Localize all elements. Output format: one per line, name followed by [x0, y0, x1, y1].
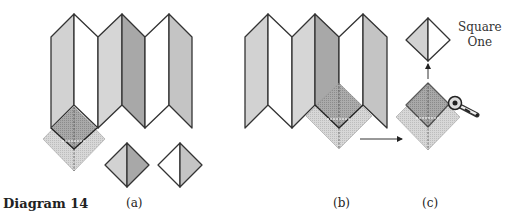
result-diamond-1 [105, 143, 149, 187]
subfigure-label-c: (c) [422, 196, 438, 210]
subfigure-label-a: (a) [126, 196, 143, 210]
square-one-label: Square One [458, 20, 502, 50]
figure-title: Diagram 14 [3, 196, 88, 211]
square-one-line1: Square [458, 20, 502, 35]
square-one-diamond [406, 18, 450, 61]
square-one-line2: One [458, 35, 502, 50]
result-diamond-2 [158, 143, 202, 187]
origami-diagram [0, 0, 515, 221]
ruler-square-c [396, 83, 460, 150]
subfigure-label-b: (b) [333, 196, 350, 210]
